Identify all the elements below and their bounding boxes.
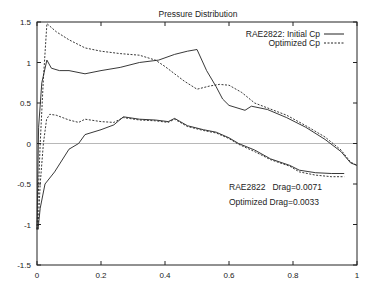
- y-tick-label: 1: [27, 59, 32, 68]
- y-tick-label: -0.5: [17, 180, 31, 189]
- pressure-distribution-chart: Pressure Distribution 00.20.40.60.81 -1.…: [0, 0, 375, 295]
- x-tick-label: 0.4: [159, 271, 171, 280]
- chart-title: Pressure Distribution: [159, 9, 238, 19]
- x-tick-label: 0.8: [287, 271, 299, 280]
- x-tick-label: 0: [35, 271, 40, 280]
- x-tick-label: 1: [355, 271, 360, 280]
- y-axis-ticks: -1.5-1-0.500.511.5: [17, 18, 357, 270]
- y-tick-label: -1.5: [17, 261, 31, 270]
- series-line-3: [38, 114, 344, 229]
- x-tick-label: 0.2: [95, 271, 107, 280]
- y-tick-label: 0: [27, 140, 32, 149]
- legend: RAE2822: Initial Cp Optimized Cp: [246, 29, 344, 48]
- x-axis-ticks: 00.20.40.60.81: [35, 22, 360, 280]
- series-line-2: [38, 117, 344, 230]
- annotation-initial-drag: RAE2822 Drag=0.0071: [229, 182, 322, 192]
- y-tick-label: 0.5: [20, 99, 32, 108]
- annotation-optimized-drag: Optimized Drag=0.0033: [229, 197, 319, 207]
- x-tick-label: 0.6: [223, 271, 235, 280]
- legend-label-optimized: Optimized Cp: [269, 38, 321, 48]
- y-tick-label: 1.5: [20, 18, 32, 27]
- y-tick-label: -1: [24, 221, 32, 230]
